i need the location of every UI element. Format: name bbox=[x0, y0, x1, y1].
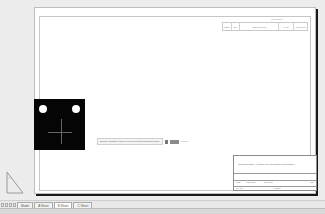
title-block-divider bbox=[234, 173, 316, 174]
dynamic-input-prompt: Specify opposite corner or [Fence/WPolyg… bbox=[97, 138, 163, 145]
dynamic-input: Specify opposite corner or [Fence/WPolyg… bbox=[97, 138, 188, 145]
drawing-area[interactable]: REVISIONS ZONE REV DESCRIPTION DATE APPR… bbox=[0, 0, 325, 200]
revision-column: DESCRIPTION bbox=[240, 23, 279, 30]
dynamic-input-arrow-icon[interactable] bbox=[165, 140, 168, 144]
title-block-label: SHEET bbox=[274, 187, 281, 189]
title-block-label: FSCM NO bbox=[246, 181, 255, 183]
layout-viewport[interactable] bbox=[34, 99, 85, 150]
title-block-label: SCALE bbox=[236, 187, 243, 189]
crosshair-vertical bbox=[61, 119, 62, 144]
ucs-icon bbox=[5, 168, 25, 195]
revision-table-title: REVISIONS bbox=[271, 18, 282, 20]
revision-column: ZONE bbox=[223, 23, 232, 30]
tab-last-icon[interactable] bbox=[13, 203, 16, 207]
title-block-label: SIZE bbox=[236, 181, 240, 183]
title-block-label: REV bbox=[310, 181, 314, 183]
dynamic-input-coordinate: 5.7717 bbox=[181, 140, 188, 143]
revision-column: REV bbox=[232, 23, 241, 30]
tab-first-icon[interactable] bbox=[1, 203, 4, 207]
title-block: CompanyName - Custom Iso Title Block Pre… bbox=[233, 155, 317, 191]
title-block-label: DWG NO bbox=[264, 181, 272, 183]
revision-column: DATE bbox=[279, 23, 293, 30]
tab-next-icon[interactable] bbox=[9, 203, 12, 207]
dynamic-input-field[interactable] bbox=[170, 140, 179, 144]
circle-hole-left bbox=[39, 105, 47, 113]
tab-prev-icon[interactable] bbox=[5, 203, 8, 207]
crosshair-horizontal bbox=[48, 132, 72, 133]
revision-column: APPROVED bbox=[294, 23, 307, 30]
title-block-company: CompanyName - Custom Iso Title Block Pre… bbox=[238, 163, 294, 166]
revision-table: ZONE REV DESCRIPTION DATE APPROVED bbox=[222, 22, 308, 31]
circle-hole-right bbox=[72, 105, 80, 113]
horizontal-scrollbar[interactable] bbox=[0, 208, 325, 214]
